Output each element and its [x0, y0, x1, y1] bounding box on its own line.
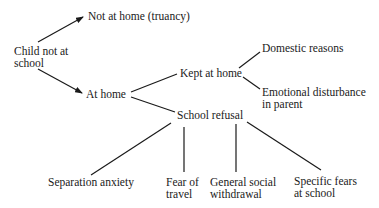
node-label: School refusal	[177, 109, 243, 121]
node-label: Domestic reasons	[262, 42, 343, 54]
node-specific-fears-at-school: Specific fears at school	[294, 175, 357, 199]
node-separation-anxiety: Separation anxiety	[48, 176, 134, 188]
node-label: Separation anxiety	[48, 176, 134, 188]
edge-refusal-separation	[91, 123, 171, 175]
edge-at-home-kept	[131, 74, 177, 92]
school-absence-diagram: Not at home (truancy) Child not at schoo…	[0, 0, 379, 208]
node-label: school	[14, 57, 68, 69]
node-label: Specific fears	[294, 175, 357, 187]
node-school-refusal: School refusal	[177, 109, 243, 121]
edge-kept-emotional	[243, 77, 260, 89]
node-label: withdrawal	[210, 188, 276, 200]
node-label: Kept at home	[180, 67, 242, 79]
edge-at-home-refusal	[131, 97, 175, 112]
node-label: General social	[210, 176, 276, 188]
node-label: Not at home (truancy)	[88, 10, 190, 22]
node-kept-at-home: Kept at home	[180, 67, 242, 79]
node-label: Emotional disturbance	[262, 86, 366, 98]
node-label: Child not at	[14, 45, 68, 57]
edge-root-at-home	[38, 69, 82, 93]
node-label: At home	[86, 88, 126, 100]
edge-refusal-specific-fears	[247, 122, 321, 170]
edge-kept-domestic	[239, 52, 260, 68]
edge-root-truancy	[38, 17, 83, 42]
node-truancy: Not at home (truancy)	[88, 10, 190, 22]
node-fear-of-travel: Fear of travel	[166, 176, 199, 200]
node-child-not-at-school: Child not at school	[14, 45, 68, 69]
node-general-social-withdrawal: General social withdrawal	[210, 176, 276, 200]
node-label: travel	[166, 188, 199, 200]
node-at-home: At home	[86, 88, 126, 100]
node-label: in parent	[262, 98, 366, 110]
node-domestic-reasons: Domestic reasons	[262, 42, 343, 54]
node-emotional-disturbance: Emotional disturbance in parent	[262, 86, 366, 110]
node-label: at school	[294, 187, 357, 199]
node-label: Fear of	[166, 176, 199, 188]
